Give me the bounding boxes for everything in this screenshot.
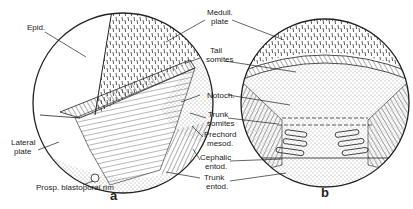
fate-map-diagram: Epid. Medull. plate Tail somites Notoch.…: [0, 0, 413, 209]
label-medull-plate-1: Medull.: [207, 8, 233, 17]
label-trunk-entod-1: Trunk: [204, 173, 225, 182]
label-cephalic-entod-1: Cephalic: [200, 153, 231, 162]
label-lateral-plate-1: Lateral: [11, 138, 36, 147]
label-prechord-mesod-1: Prechord: [204, 130, 236, 139]
panel-b-embryo: [240, 0, 410, 200]
label-trunk-entod-2: entod.: [206, 182, 228, 191]
label-lateral-plate-2: plate: [14, 147, 32, 156]
label-trunk-somites-1: Trunk: [208, 110, 229, 119]
label-notoch: Notoch.: [207, 91, 235, 100]
label-tail-somites-1: Tail: [210, 46, 222, 55]
label-epid: Epid.: [27, 23, 45, 32]
label-prechord-mesod-2: mesod.: [207, 139, 233, 148]
label-medull-plate-2: plate: [211, 17, 229, 26]
label-prosp-blastoporal-rim: Prosp. blastoporal rim: [36, 183, 114, 192]
panel-label-b: b: [321, 185, 329, 200]
panel-label-a: a: [110, 188, 118, 203]
label-cephalic-entod-2: entod.: [205, 162, 227, 171]
label-trunk-somites-2: somites: [207, 119, 235, 128]
blastoporal-rim-marker: [91, 174, 99, 182]
label-tail-somites-2: somites: [206, 55, 234, 64]
